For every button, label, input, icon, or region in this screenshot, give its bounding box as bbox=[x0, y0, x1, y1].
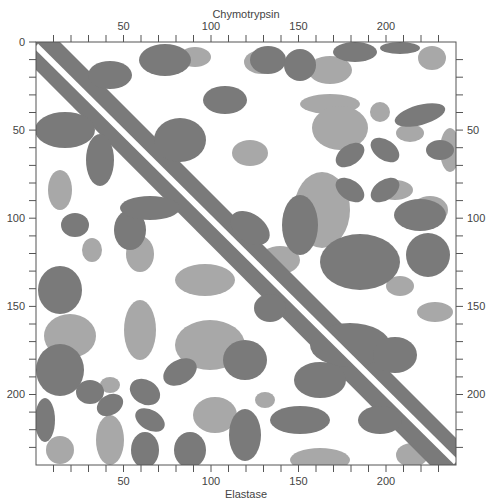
top-tick-label-200: 200 bbox=[377, 20, 395, 32]
top-tick-label-50: 50 bbox=[117, 20, 129, 32]
right-tick-label-150: 150 bbox=[467, 300, 485, 312]
right-axis-ticks bbox=[456, 60, 463, 448]
right-tick-label-50: 50 bbox=[467, 124, 479, 136]
left-tick-label-0: 0 bbox=[19, 36, 25, 48]
dot-plot-chart: Chymotrypsin Elastase 50 100 150 200 50 … bbox=[0, 0, 491, 503]
bottom-tick-label-100: 100 bbox=[202, 475, 220, 487]
left-tick-label-100: 100 bbox=[7, 212, 25, 224]
left-tick-label-200: 200 bbox=[7, 388, 25, 400]
bottom-axis-ticks bbox=[54, 465, 439, 472]
top-tick-label-150: 150 bbox=[289, 20, 307, 32]
top-tick-label-100: 100 bbox=[202, 20, 220, 32]
bottom-tick-label-50: 50 bbox=[117, 475, 129, 487]
plot-area bbox=[35, 42, 460, 472]
right-tick-label-100: 100 bbox=[467, 212, 485, 224]
bottom-tick-label-150: 150 bbox=[289, 475, 307, 487]
bottom-tick-label-200: 200 bbox=[377, 475, 395, 487]
top-axis-ticks bbox=[54, 35, 439, 42]
top-axis-title: Chymotrypsin bbox=[212, 8, 279, 20]
left-tick-label-50: 50 bbox=[13, 124, 25, 136]
left-tick-label-150: 150 bbox=[7, 300, 25, 312]
left-axis-ticks bbox=[29, 42, 36, 447]
right-tick-label-200: 200 bbox=[467, 388, 485, 400]
bottom-axis-title: Elastase bbox=[225, 488, 267, 500]
